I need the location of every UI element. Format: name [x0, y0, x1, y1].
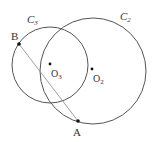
chord-ba [19, 44, 78, 121]
geometry-diagram: B A C3 C2 O3 O2 [0, 0, 153, 142]
label-c2: C2 [120, 10, 131, 24]
label-b: B [11, 30, 18, 42]
point-b [17, 42, 21, 46]
point-o3 [49, 63, 52, 66]
point-o2 [91, 68, 94, 71]
label-c3: C3 [27, 13, 38, 27]
label-o3: O3 [51, 68, 62, 81]
point-a [76, 119, 80, 123]
label-a: A [73, 126, 81, 138]
label-o2: O2 [93, 73, 104, 86]
